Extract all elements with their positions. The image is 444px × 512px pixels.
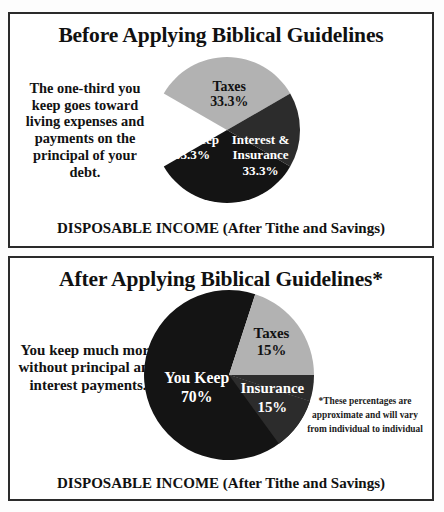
pie-label-insurance-value: 15% <box>257 399 287 415</box>
pie-label-interest-insurance-value: 33.3% <box>243 163 279 178</box>
pie-label-you-keep-name: You Keep <box>165 132 219 147</box>
panel-after-side-note: You keep much more without principal and… <box>18 342 158 394</box>
pie-label-you-keep-name: You Keep <box>164 369 229 387</box>
pie-label-taxes-value: 15% <box>257 342 287 358</box>
pie-label-interest-insurance-name2: Insurance <box>233 147 289 162</box>
before-pie-chart: Taxes 33.3% Interest & Insurance 33.3% Y… <box>154 57 300 203</box>
pie-label-insurance-name: Insurance <box>241 380 305 396</box>
panel-after-caption: DISPOSABLE INCOME (After Tithe and Savin… <box>10 475 432 492</box>
infographic-sheet: Before Applying Biblical Guidelines The … <box>0 0 444 512</box>
panel-before: Before Applying Biblical Guidelines The … <box>8 12 434 248</box>
panel-after: After Applying Biblical Guidelines* You … <box>8 256 434 501</box>
after-pie-chart: Taxes 15% Insurance 15% You Keep 70% <box>144 290 314 460</box>
pie-label-you-keep-value: 33.3% <box>174 147 210 162</box>
pie-label-interest-insurance-name1: Interest & <box>232 132 290 147</box>
panel-before-side-note: The one-third you keep goes toward livin… <box>20 80 150 180</box>
pie-label-taxes-name: Taxes <box>254 325 290 341</box>
pie-label-taxes-name: Taxes <box>212 79 246 94</box>
pie-label-taxes-value: 33.3% <box>210 94 248 109</box>
panel-after-title: After Applying Biblical Guidelines* <box>10 267 432 292</box>
pie-label-you-keep-value: 70% <box>181 388 212 405</box>
panel-before-title: Before Applying Biblical Guidelines <box>10 23 432 48</box>
panel-before-caption: DISPOSABLE INCOME (After Tithe and Savin… <box>10 220 432 237</box>
panel-after-footnote: *These percentages are approximate and w… <box>306 394 424 436</box>
